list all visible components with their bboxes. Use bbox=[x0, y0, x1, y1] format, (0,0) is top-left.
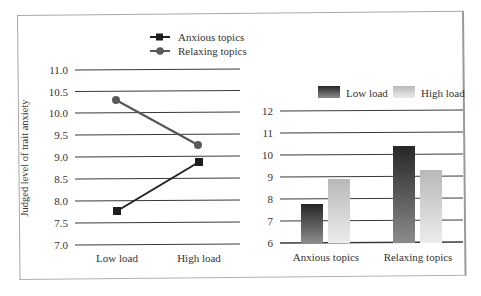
circle-marker-icon bbox=[156, 47, 164, 55]
y-axis-label: Judged level of trait anxiety bbox=[19, 99, 30, 217]
legend-item-low-load: Low load bbox=[318, 86, 388, 99]
legend-item-anxious: Anxious topics bbox=[150, 31, 244, 43]
series-anxious-topics bbox=[113, 158, 203, 215]
bar-relaxing-high-load bbox=[420, 170, 442, 243]
line-legend: Anxious topics Relaxing topics bbox=[150, 31, 247, 57]
line-gridlines bbox=[75, 69, 240, 245]
legend-item-relaxing: Relaxing topics bbox=[150, 45, 247, 57]
bar-y-ticks: 12 11 10 9 8 7 6 bbox=[262, 105, 274, 249]
y-tick: 7.0 bbox=[54, 239, 68, 251]
line-chart: Judged level of trait anxiety 11.0 10.5 … bbox=[19, 31, 247, 264]
y-tick: 8.5 bbox=[54, 173, 68, 185]
circle-marker-icon bbox=[112, 96, 120, 104]
y-tick: 12 bbox=[262, 105, 273, 117]
x-label-anxious-topics: Anxious topics bbox=[293, 251, 359, 263]
y-tick: 9 bbox=[268, 171, 274, 183]
y-tick: 7.5 bbox=[54, 217, 68, 229]
square-marker-icon bbox=[156, 34, 163, 41]
square-marker-icon bbox=[195, 158, 203, 166]
y-tick: 6 bbox=[268, 237, 274, 249]
legend-label: Low load bbox=[346, 87, 388, 99]
y-tick: 8.0 bbox=[54, 195, 68, 207]
bars bbox=[301, 146, 442, 243]
x-label-low-load: Low load bbox=[96, 252, 138, 264]
y-tick: 10.0 bbox=[49, 107, 69, 119]
dark-swatch-icon bbox=[318, 86, 340, 98]
y-tick: 9.5 bbox=[54, 129, 68, 141]
y-tick: 11.0 bbox=[49, 64, 68, 76]
x-label-relaxing-topics: Relaxing topics bbox=[384, 251, 453, 263]
bar-chart: 12 11 10 9 8 7 6 Anxious topics Relaxing… bbox=[262, 86, 465, 263]
bar-anxious-high-load bbox=[328, 179, 350, 243]
legend-item-high-load: High load bbox=[393, 86, 465, 99]
y-tick: 8 bbox=[268, 193, 274, 205]
legend-label: High load bbox=[421, 87, 465, 99]
legend-label: Relaxing topics bbox=[178, 45, 247, 57]
series-relaxing-topics bbox=[112, 96, 202, 149]
light-swatch-icon bbox=[393, 86, 415, 98]
y-tick: 10 bbox=[262, 149, 274, 161]
y-tick: 9.0 bbox=[54, 151, 68, 163]
y-tick: 11 bbox=[262, 127, 273, 139]
figure-canvas: Judged level of trait anxiety 11.0 10.5 … bbox=[0, 0, 481, 296]
legend-label: Anxious topics bbox=[178, 31, 244, 43]
circle-marker-icon bbox=[194, 141, 202, 149]
line-y-ticks: 11.0 10.5 10.0 9.5 9.0 8.5 8.0 7.5 7.0 bbox=[49, 64, 69, 251]
y-tick: 10.5 bbox=[49, 86, 69, 98]
bar-relaxing-low-load bbox=[393, 146, 415, 243]
bar-anxious-low-load bbox=[301, 204, 323, 243]
square-marker-icon bbox=[113, 207, 121, 215]
bar-legend: Low load High load bbox=[318, 86, 465, 99]
y-tick: 7 bbox=[268, 215, 274, 227]
x-label-high-load: High load bbox=[177, 252, 221, 264]
